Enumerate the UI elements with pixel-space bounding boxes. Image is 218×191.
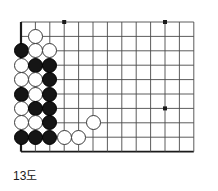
black-stone[interactable]: [28, 58, 43, 73]
white-stone[interactable]: [86, 115, 101, 130]
white-stone[interactable]: [14, 72, 29, 87]
star-point: [62, 20, 66, 24]
white-stone[interactable]: [28, 72, 43, 87]
black-stone[interactable]: [14, 43, 29, 58]
white-stone[interactable]: [14, 58, 29, 73]
black-stone[interactable]: [42, 130, 57, 145]
white-stone[interactable]: [14, 115, 29, 130]
white-stone[interactable]: [71, 130, 86, 145]
star-point: [163, 20, 167, 24]
black-stone[interactable]: [42, 87, 57, 102]
black-stone[interactable]: [28, 130, 43, 145]
go-board[interactable]: [0, 0, 218, 165]
white-stone[interactable]: [28, 87, 43, 102]
black-stone[interactable]: [14, 130, 29, 145]
white-stone[interactable]: [28, 29, 43, 44]
star-point: [163, 106, 167, 110]
white-stone[interactable]: [14, 101, 29, 116]
go-diagram-figure: 13도: [0, 0, 218, 191]
white-stone[interactable]: [57, 130, 72, 145]
figure-caption: 13도: [13, 169, 37, 183]
black-stone[interactable]: [28, 101, 43, 116]
black-stone[interactable]: [14, 87, 29, 102]
black-stone[interactable]: [42, 58, 57, 73]
